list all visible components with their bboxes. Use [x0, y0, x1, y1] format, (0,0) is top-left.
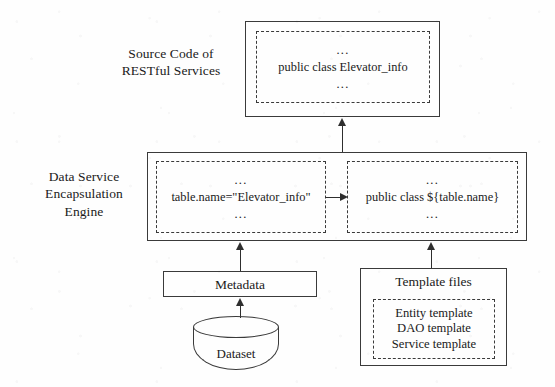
arrow-template-files-to-engine-head — [427, 242, 435, 250]
arrow-template-files-to-engine-shaft — [431, 250, 432, 268]
engine-metadata-dots-bottom: ... — [235, 208, 248, 220]
engine-metadata-dots-top: ... — [235, 174, 248, 186]
source-code-layer-label: Source Code of RESTful Services — [96, 45, 246, 80]
source-code-class-line: public class Elevator_info — [278, 60, 407, 75]
engine-metadata-code-line: table.name="Elevator_info" — [171, 190, 310, 205]
dataset-cylinder-top — [193, 316, 279, 338]
template-item-service: Service template — [392, 337, 476, 352]
template-files-list: Entity template DAO template Service tem… — [373, 299, 495, 359]
arrow-dataset-to-metadata-head — [236, 298, 244, 306]
engine-layer-label: Data Service Encapsulation Engine — [20, 168, 148, 220]
source-code-dots-bottom: ... — [337, 78, 350, 90]
arrow-engine-to-source-code-head — [338, 118, 346, 126]
engine-template-content: ... public class ${table.name} ... — [347, 161, 518, 233]
source-code-dots-top: ... — [337, 44, 350, 56]
arrow-metadata-to-engine-head — [236, 242, 244, 250]
arrow-engine-to-source-code-shaft — [342, 126, 343, 152]
template-item-entity: Entity template — [395, 306, 472, 321]
dataset-cylinder: Dataset — [193, 316, 279, 370]
metadata-label: Metadata — [163, 276, 317, 293]
source-code-content: ... public class Elevator_info ... — [256, 31, 430, 103]
arrow-metadata-to-template-shaft — [325, 197, 341, 198]
engine-template-dots-top: ... — [426, 174, 439, 186]
arrow-metadata-to-engine-shaft — [240, 250, 241, 271]
template-files-label: Template files — [360, 273, 507, 290]
engine-template-code-line: public class ${table.name} — [366, 190, 499, 205]
engine-template-dots-bottom: ... — [426, 208, 439, 220]
engine-metadata-content: ... table.name="Elevator_info" ... — [156, 161, 326, 233]
dataset-label: Dataset — [193, 346, 279, 362]
diagram-canvas: Source Code of RESTful Services ... publ… — [0, 0, 555, 387]
template-item-dao: DAO template — [397, 321, 471, 336]
